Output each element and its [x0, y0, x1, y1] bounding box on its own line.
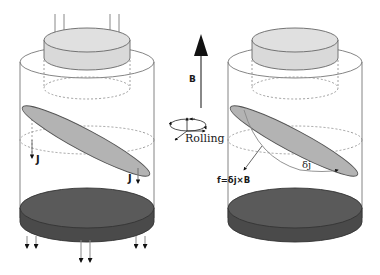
- diagram-canvas: J J B: [0, 0, 380, 275]
- center-annotations: B Rolling: [170, 34, 225, 145]
- force-arrow: [244, 146, 262, 170]
- magnetic-field-arrow: [194, 34, 208, 108]
- current-label-j-left: J: [35, 154, 40, 165]
- rolling-label: Rolling: [185, 132, 225, 145]
- tilted-current-disk-right: [225, 97, 362, 184]
- top-electrode-disk-right: [252, 28, 338, 70]
- bottom-electrode-disk: [20, 188, 154, 242]
- left-cylinder: J J: [17, 14, 154, 262]
- field-label-b: B: [189, 74, 196, 84]
- tilted-current-disk: [17, 97, 154, 184]
- top-electrode-disk: [44, 28, 130, 70]
- force-label: f=δj×B: [217, 175, 250, 185]
- bottom-electrode-disk-right: [228, 188, 362, 242]
- delta-j-label: δj: [302, 159, 311, 170]
- current-label-j-right: J: [127, 173, 132, 184]
- right-cylinder: δj f=δj×B: [217, 28, 363, 242]
